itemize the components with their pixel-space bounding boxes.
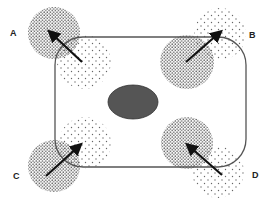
label-d: D (252, 170, 259, 180)
label-b: B (249, 30, 256, 40)
cell-diagram (0, 0, 269, 201)
region-a (28, 7, 111, 89)
label-c: C (13, 171, 20, 181)
nucleus (108, 85, 158, 119)
label-a: A (10, 28, 17, 38)
sparse-concentration-b (194, 8, 246, 60)
